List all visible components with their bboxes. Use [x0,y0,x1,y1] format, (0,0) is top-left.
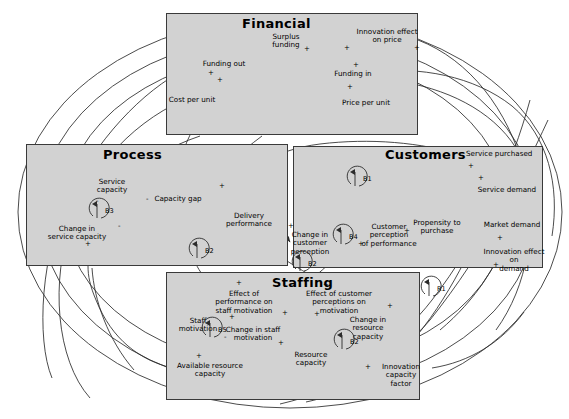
polarity-sign: + [278,340,284,346]
polarity-sign: + [347,84,353,90]
loop-label-b2-staffing: B2 [350,338,359,346]
polarity-sign: - [224,334,227,340]
polarity-sign: + [404,228,410,234]
polarity-sign: + [414,45,420,51]
polarity-sign: + [323,282,329,288]
polarity-sign: + [219,183,225,189]
polarity-sign: + [288,223,294,229]
polarity-sign: + [497,235,503,241]
polarity-sign: + [353,62,359,68]
loop-markers-layer [0,0,569,419]
polarity-sign: + [236,280,242,286]
polarity-sign: + [478,175,484,181]
polarity-sign: - [96,198,99,204]
loop-label-r3: B2 [308,260,317,268]
polarity-sign: + [365,364,371,370]
polarity-sign: + [196,353,202,359]
polarity-sign: + [85,241,91,247]
polarity-sign: + [493,262,499,268]
polarity-sign: + [314,311,320,317]
polarity-sign: + [468,163,474,169]
polarity-sign: + [229,314,235,320]
loop-label-b3: B3 [105,207,114,215]
polarity-sign: + [304,46,310,52]
polarity-sign: + [358,241,364,247]
polarity-sign: - [118,223,121,229]
polarity-sign: + [387,303,393,309]
polarity-sign: + [344,45,350,51]
causal-loop-diagram: Financial Process Customers Staffing Sur… [0,0,569,419]
polarity-sign: + [217,77,223,83]
polarity-sign: - [146,196,149,202]
loop-label-b1: B1 [363,175,372,183]
polarity-sign: + [282,310,288,316]
polarity-sign: + [208,70,214,76]
loop-label-b2-process: B2 [205,247,214,255]
loop-label-r1: R1 [437,285,446,293]
loop-label-b4: B4 [349,233,358,241]
